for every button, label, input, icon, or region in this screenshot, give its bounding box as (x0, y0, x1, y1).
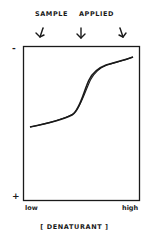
arrow-icon-right (119, 28, 126, 37)
arrow-icon-center (77, 28, 85, 38)
y-axis-plus-label: + (12, 192, 20, 201)
curve-2 (30, 57, 133, 127)
y-axis-minus-label: - (12, 44, 16, 53)
x-axis-title: [ DENATURANT ] (0, 223, 149, 231)
x-axis-high-label: high (122, 204, 138, 212)
x-axis-low-label: low (25, 204, 38, 212)
curve-1 (30, 57, 133, 127)
arrow-icon-left (36, 28, 44, 37)
plot-frame (24, 47, 140, 201)
